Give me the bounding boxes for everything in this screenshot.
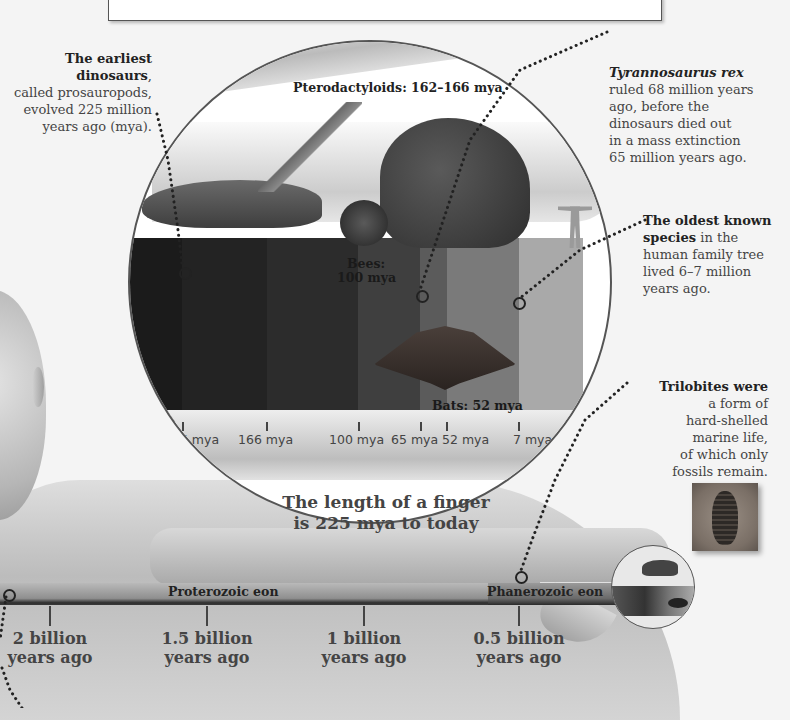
human-leader-line	[520, 220, 645, 298]
callout-line: evolved 225 million	[0, 101, 152, 118]
callout-line: years ago (mya).	[0, 118, 152, 135]
callout-bold: Trilobites were	[659, 379, 768, 394]
callout-line: hard-shelled	[620, 412, 768, 429]
callout-bold: The oldest known	[643, 213, 772, 228]
callout-line: a form of	[620, 395, 768, 412]
callout-line: lived 6–7 million	[643, 263, 790, 280]
callout-bold: The earliest dinosaurs	[65, 51, 152, 83]
callout-line: marine life,	[620, 429, 768, 446]
human-species-callout: The oldest known species in the human fa…	[643, 212, 790, 297]
callout-text: in the	[696, 230, 738, 245]
callout-line: dinosaurs died out	[609, 115, 789, 132]
trilobite-leader-line	[520, 383, 627, 573]
callout-line: years ago.	[643, 280, 790, 297]
callout-line: fossils remain.	[620, 463, 768, 480]
callout-line: in a mass extinction	[609, 132, 789, 149]
trilobites-callout: Trilobites were a form of hard-shelled m…	[620, 378, 768, 480]
callout-bold: species	[643, 230, 696, 245]
dinosaur-leader-line	[157, 114, 182, 265]
callout-line: of which only	[620, 446, 768, 463]
trex-callout: Tyrannosaurus rex ruled 68 million years…	[609, 64, 789, 166]
callout-italic: Tyrannosaurus rex	[609, 65, 744, 80]
earliest-dinosaurs-callout: The earliest dinosaurs, called prosaurop…	[0, 50, 152, 135]
callout-line: called prosauropods,	[0, 84, 152, 101]
callout-line: ago, before the	[609, 98, 789, 115]
proterozoic-leader-line	[0, 597, 22, 708]
callout-line: 65 million years ago.	[609, 149, 789, 166]
callout-line: ruled 68 million years	[609, 81, 789, 98]
callout-line: human family tree	[643, 246, 790, 263]
